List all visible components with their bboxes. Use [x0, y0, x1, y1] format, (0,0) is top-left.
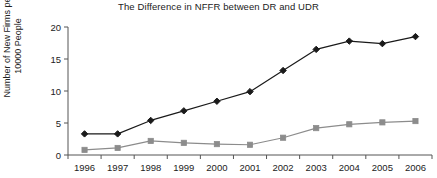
data-point-marker	[181, 140, 186, 145]
y-tick-label: 20	[50, 22, 61, 33]
data-point-marker	[413, 118, 418, 123]
chart-figure: The Difference in NFFR between DR and UD…	[0, 0, 437, 178]
x-tick-label: 2005	[372, 162, 393, 173]
data-point-marker	[347, 122, 352, 127]
x-tick-label: 2002	[273, 162, 294, 173]
x-tick-label: 2003	[306, 162, 327, 173]
data-point-marker	[214, 142, 219, 147]
data-point-marker	[82, 147, 87, 152]
data-point-marker	[115, 145, 120, 150]
data-point-marker	[280, 67, 286, 73]
data-point-marker	[280, 135, 285, 140]
x-tick-label: 2000	[206, 162, 227, 173]
x-tick-group	[68, 155, 432, 159]
x-tick-labels: 1996199719981999200020012002200320042005…	[74, 162, 426, 173]
x-tick-label: 1999	[173, 162, 194, 173]
plot-area: 05101520 1996199719981999200020012002200…	[0, 0, 437, 178]
x-tick-label: 1998	[140, 162, 161, 173]
y-tick-label: 5	[56, 118, 61, 129]
x-tick-label: 1997	[107, 162, 128, 173]
data-point-marker	[114, 131, 120, 137]
x-tick-label: 2006	[405, 162, 426, 173]
y-tick-group: 05101520	[50, 22, 68, 161]
data-point-marker	[346, 38, 352, 44]
data-point-marker	[214, 98, 220, 104]
series-line	[85, 37, 416, 134]
y-tick-label: 15	[50, 54, 61, 65]
data-point-marker	[247, 142, 252, 147]
data-point-marker	[380, 120, 385, 125]
data-point-marker	[412, 33, 418, 39]
y-tick-label: 0	[56, 150, 61, 161]
data-point-marker	[314, 126, 319, 131]
data-point-marker	[247, 88, 253, 94]
x-tick-label: 2004	[339, 162, 360, 173]
data-point-marker	[313, 46, 319, 52]
series-udr	[82, 118, 418, 152]
data-point-marker	[181, 108, 187, 114]
data-point-marker	[148, 117, 154, 123]
y-tick-label: 10	[50, 86, 61, 97]
x-tick-label: 2001	[239, 162, 260, 173]
series-dr	[81, 33, 418, 137]
series-group	[81, 33, 418, 152]
x-tick-label: 1996	[74, 162, 95, 173]
data-point-marker	[379, 40, 385, 46]
data-point-marker	[148, 138, 153, 143]
data-point-marker	[81, 131, 87, 137]
